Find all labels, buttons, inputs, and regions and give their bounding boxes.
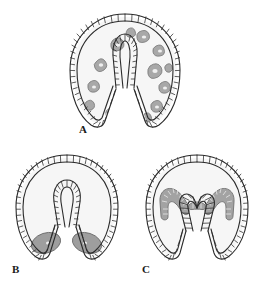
panel-label-c: C [142, 264, 150, 275]
panel-b-illustration [10, 152, 125, 272]
figure-root: A B C [0, 0, 262, 297]
panel-label-b: B [12, 264, 19, 275]
panel-c-illustration [140, 152, 255, 272]
panel-a-illustration [60, 10, 190, 135]
panel-label-a: A [79, 124, 87, 135]
